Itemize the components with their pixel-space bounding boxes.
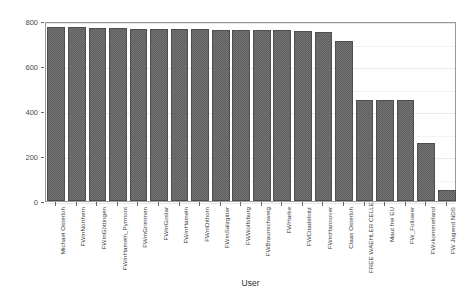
x-tick-mark (117, 202, 118, 206)
y-tick-label: 400 (2, 108, 38, 117)
bars-layer (46, 23, 455, 201)
x-tick-mark (446, 202, 447, 206)
x-tick-mark (261, 202, 262, 206)
bar[interactable] (294, 31, 312, 201)
x-tick-mark (199, 202, 200, 206)
x-tick-label: FW Jugend NDS (448, 207, 458, 273)
bar[interactable] (109, 28, 127, 201)
x-tick-label: Claas Osterloh (346, 207, 356, 273)
y-tick-mark (41, 22, 44, 23)
x-tick-label: FWmDithom (202, 207, 212, 273)
bar[interactable] (273, 30, 291, 201)
bar[interactable] (438, 190, 456, 201)
x-tick-label: FWmHannover (325, 207, 335, 273)
x-tick-mark (322, 202, 323, 206)
x-tick-label: FWmSalzgitter (222, 207, 232, 273)
bar[interactable] (150, 29, 168, 201)
bar[interactable] (47, 27, 65, 201)
x-tick-label: FWvkommerland (428, 207, 438, 273)
x-tick-label: FWmGoslar (161, 207, 171, 273)
x-tick-mark (425, 202, 426, 206)
x-tick-label: FWmGrimmen (140, 207, 150, 273)
bar-chart: Number of tweets 0200400600800 Michael O… (0, 0, 473, 302)
x-tick-label: FWmNorthern (78, 207, 88, 273)
x-tick-label: FWmHameln_Pyrmont (120, 207, 130, 273)
x-tick-mark (76, 202, 77, 206)
y-tick-label: 200 (2, 153, 38, 162)
bar[interactable] (315, 32, 333, 201)
x-tick-label: FWWolfsburg (243, 207, 253, 273)
bar[interactable] (417, 143, 435, 201)
y-tick-label: 800 (2, 18, 38, 27)
x-tick-label: Maut frei EU (387, 207, 397, 273)
bar[interactable] (68, 27, 86, 201)
y-tick-mark (41, 67, 44, 68)
bar[interactable] (171, 29, 189, 201)
bar[interactable] (89, 28, 107, 201)
bar[interactable] (212, 30, 230, 201)
x-tick-label: FWmGöttingen (99, 207, 109, 273)
x-tick-label: Michael Osterloh (58, 207, 68, 273)
y-tick-mark (41, 112, 44, 113)
x-tick-label: FWCitadelnitz (304, 207, 314, 273)
bar[interactable] (376, 100, 394, 201)
x-tick-mark (96, 202, 97, 206)
bar[interactable] (253, 30, 271, 201)
bar[interactable] (130, 29, 148, 201)
x-tick-mark (220, 202, 221, 206)
x-tick-mark (405, 202, 406, 206)
y-tick-label: 0 (2, 198, 38, 207)
x-tick-mark (281, 202, 282, 206)
plot-panel (45, 22, 456, 202)
x-tick-mark (384, 202, 385, 206)
bar[interactable] (397, 100, 415, 201)
x-tick-label: FREE WAEHLER CELLE (366, 207, 376, 273)
x-tick-mark (343, 202, 344, 206)
y-tick-mark (41, 157, 44, 158)
x-tick-mark (158, 202, 159, 206)
y-tick-mark (41, 202, 44, 203)
x-tick-mark (364, 202, 365, 206)
x-axis-labels: Michael OsterlohFWmNorthernFWmGöttingenF… (45, 207, 456, 273)
x-tick-label: FWmHameln (181, 207, 191, 273)
x-tick-label: FWBraunschweig (263, 207, 273, 273)
bar[interactable] (191, 29, 209, 201)
bar[interactable] (335, 41, 353, 201)
x-tick-mark (55, 202, 56, 206)
x-tick-mark (137, 202, 138, 206)
x-tick-mark (302, 202, 303, 206)
x-tick-mark (240, 202, 241, 206)
x-tick-mark (179, 202, 180, 206)
y-tick-label: 600 (2, 63, 38, 72)
bar[interactable] (356, 100, 374, 201)
x-tick-label: FW_Follower (407, 207, 417, 273)
bar[interactable] (232, 30, 250, 201)
y-axis: 0200400600800 (0, 0, 44, 302)
x-axis-title: User (45, 278, 456, 288)
x-tick-label: FWHarke (284, 207, 294, 273)
